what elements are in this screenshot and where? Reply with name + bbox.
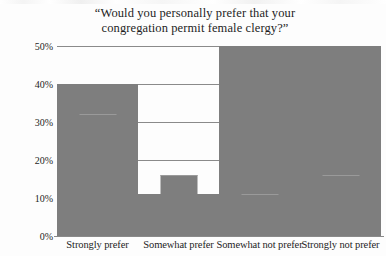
chart-title: “Would you personally prefer that your c… <box>60 6 330 36</box>
y-tick-label-1: 10% <box>9 193 53 204</box>
y-axis: 0% 10% 20% 30% 40% 50% <box>0 46 53 236</box>
y-tick-label-2: 20% <box>9 155 53 166</box>
plot-wrapper: 0% 10% 20% 30% 40% 50% <box>0 40 386 238</box>
x-axis-labels: Strongly prefer Somewhat prefer Somewhat… <box>57 239 381 255</box>
x-tick-label-strongly-prefer: Strongly prefer <box>66 239 128 250</box>
x-tick-label-somewhat-prefer: Somewhat prefer <box>143 239 214 250</box>
bar-strongly-prefer <box>79 114 116 236</box>
y-tick-label-5: 50% <box>9 41 53 52</box>
y-tick-label-4: 40% <box>9 79 53 90</box>
bar-somewhat-prefer <box>160 175 197 236</box>
x-tick-label-strongly-not-prefer: Strongly not prefer <box>302 239 380 250</box>
chart-title-line-2: congregation permit female clergy?” <box>60 21 330 36</box>
bar-slot-strongly-prefer <box>57 84 138 236</box>
y-tick-label-3: 30% <box>9 117 53 128</box>
x-tick-label-somewhat-not-prefer: Somewhat not prefer <box>216 239 302 250</box>
scan-edge-artifact <box>0 0 386 4</box>
y-tick-label-0: 0% <box>9 231 53 242</box>
bar-slot-somewhat-not-prefer <box>219 46 300 236</box>
bar-strongly-not-prefer <box>322 175 359 236</box>
bar-slot-strongly-not-prefer <box>300 46 381 236</box>
bar-chart-figure: “Would you personally prefer that your c… <box>0 0 386 256</box>
gridline-0-baseline <box>54 236 384 237</box>
bar-slot-somewhat-prefer <box>138 194 219 236</box>
bar-somewhat-not-prefer <box>241 194 278 236</box>
bar-series <box>57 46 381 236</box>
chart-title-line-1: “Would you personally prefer that your <box>60 6 330 21</box>
